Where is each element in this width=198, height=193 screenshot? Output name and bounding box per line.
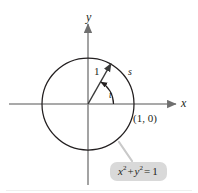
y-axis-label: y [86, 11, 91, 23]
equation-equals-operator: = [143, 165, 151, 177]
unit-circle-figure: y x 1 s t (1, 0) x2+y2=1 [0, 0, 198, 193]
equation-right-side: 1 [151, 165, 159, 177]
x-axis-label: x [181, 97, 186, 109]
radius-length-label: 1 [94, 66, 100, 77]
callout-leader-line [119, 142, 132, 161]
circle-equation-callout: x2+y2=1 [110, 162, 167, 181]
diagram-canvas [0, 0, 198, 193]
angle-label: t [109, 90, 112, 100]
point-coordinate-label: (1, 0) [133, 113, 157, 124]
arc-length-label: s [128, 67, 132, 77]
equation-plus-operator: + [126, 165, 134, 177]
radius-segment [88, 64, 111, 105]
